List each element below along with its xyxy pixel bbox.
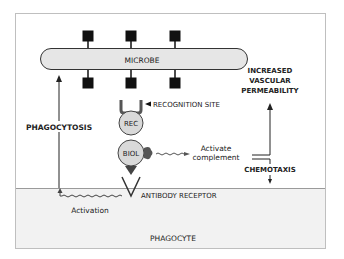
diagram-canvas: MICROBE RECOGNITION SITE REC BIOL ANTIBO… — [0, 0, 344, 259]
rec-label: REC — [124, 120, 138, 128]
chemotaxis-label: CHEMOTAXIS — [244, 166, 295, 174]
activate-label-line2: complement — [192, 153, 239, 162]
activation-label: Activation — [71, 206, 109, 215]
phagocyte-label: PHAGOCYTE — [150, 234, 196, 243]
recognition-site-label: RECOGNITION SITE — [153, 101, 220, 109]
activate-label-line1: Activate — [201, 144, 232, 153]
biol-label: BIOL — [123, 150, 139, 158]
increased-label-line2: VASCULAR — [249, 77, 291, 85]
microbe-label: MICROBE — [125, 56, 160, 65]
phagocytosis-label: PHAGOCYTOSIS — [26, 123, 92, 132]
antibody-receptor-label: ANTIBODY RECEPTOR — [141, 192, 217, 200]
increased-label-line1: INCREASED — [248, 67, 293, 75]
increased-label-line3: PERMEABILITY — [241, 87, 299, 95]
